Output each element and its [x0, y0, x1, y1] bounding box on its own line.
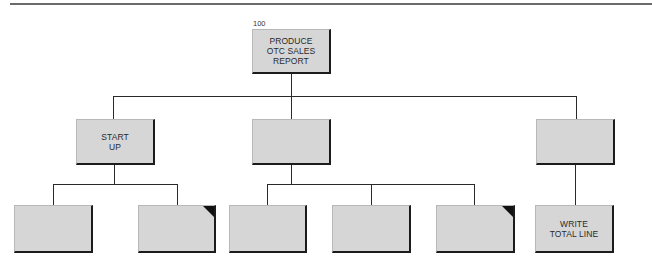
connector [291, 74, 292, 96]
module-box-marked [138, 205, 216, 253]
connector [291, 96, 292, 119]
connector [177, 184, 178, 205]
connector [267, 184, 268, 205]
module-number: 100 [253, 19, 266, 28]
corner-mark-icon [502, 206, 513, 217]
module-box [332, 205, 411, 253]
connector [576, 96, 577, 119]
connector [113, 96, 577, 97]
module-box-write-total-line: WRITE TOTAL LINE [535, 205, 614, 253]
module-box [536, 119, 615, 165]
root-module-box: PRODUCE OTC SALES REPORT [252, 29, 331, 74]
module-box [14, 205, 93, 253]
root-module-label: PRODUCE OTC SALES REPORT [267, 36, 316, 66]
connector [291, 165, 292, 184]
module-box [252, 119, 331, 165]
connector [53, 184, 178, 185]
connector [575, 165, 576, 205]
top-rule [10, 3, 652, 5]
module-box-marked [436, 205, 515, 253]
connector [114, 165, 115, 184]
connector [53, 184, 54, 205]
connector [113, 96, 114, 119]
connector [371, 184, 372, 205]
module-label: START UP [101, 132, 129, 152]
module-box [229, 205, 307, 253]
module-box-start-up: START UP [76, 119, 155, 165]
module-label: WRITE TOTAL LINE [550, 219, 599, 239]
corner-mark-icon [203, 206, 214, 217]
connector [474, 184, 475, 205]
